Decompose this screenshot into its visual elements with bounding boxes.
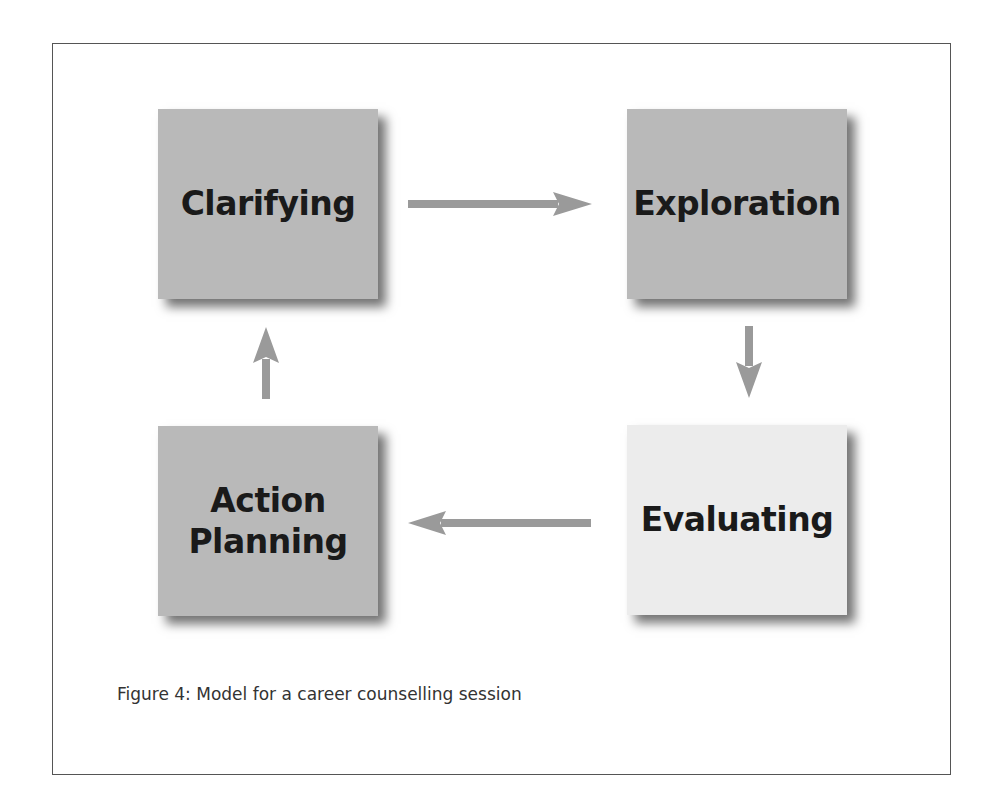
node-clarifying: Clarifying bbox=[158, 109, 378, 299]
node-evaluating: Evaluating bbox=[627, 425, 847, 615]
node-action-planning: Action Planning bbox=[158, 426, 378, 616]
arrow-down-icon bbox=[735, 324, 763, 400]
arrow-right-icon bbox=[405, 190, 595, 218]
arrow-left-icon bbox=[406, 509, 596, 537]
node-label: Exploration bbox=[633, 183, 841, 224]
arrow-up-icon bbox=[252, 325, 280, 401]
node-label: Evaluating bbox=[641, 499, 834, 540]
node-exploration: Exploration bbox=[627, 109, 847, 299]
node-label-line2: Planning bbox=[188, 521, 347, 562]
figure-caption: Figure 4: Model for a career counselling… bbox=[117, 684, 522, 704]
node-label: Clarifying bbox=[181, 183, 356, 224]
node-label-line1: Action bbox=[188, 480, 347, 521]
